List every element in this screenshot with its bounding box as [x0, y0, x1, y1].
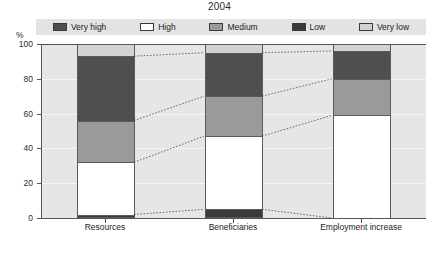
- y-axis-tick: [37, 183, 41, 184]
- x-axis-label: Resources: [45, 222, 165, 232]
- legend-swatch-low: [292, 23, 306, 31]
- legend-item-low: Low: [292, 22, 326, 32]
- legend-label-very-high: Very high: [71, 22, 106, 32]
- legend-label-high: High: [158, 22, 175, 32]
- legend-swatch-medium: [209, 23, 223, 31]
- y-axis-tick: [37, 79, 41, 80]
- bar-segment-high: [333, 115, 391, 218]
- legend-label-medium: Medium: [227, 22, 257, 32]
- bar-segment-very-high: [205, 53, 263, 97]
- bar-segment-medium: [205, 96, 263, 136]
- y-axis-tick: [37, 114, 41, 115]
- legend-item-medium: Medium: [209, 22, 257, 32]
- bar-employment-increase[interactable]: [333, 44, 391, 218]
- y-axis-label: 60: [7, 109, 33, 119]
- legend-swatch-high: [140, 23, 154, 31]
- chart-legend: Very high High Medium Low Very low: [36, 19, 426, 35]
- legend-swatch-very-high: [53, 23, 67, 31]
- bar-segment-medium: [77, 121, 135, 163]
- y-axis-label: 100: [7, 39, 33, 49]
- bar-segment-high: [77, 162, 135, 214]
- bar-segment-high: [205, 136, 263, 209]
- y-axis-tick: [37, 44, 41, 45]
- bar-segment-very-low: [205, 44, 263, 53]
- y-axis-label: 0: [7, 213, 33, 223]
- x-axis-label: Employment increase: [301, 222, 421, 232]
- legend-swatch-very-low: [359, 23, 373, 31]
- bar-segment-very-low: [333, 44, 391, 51]
- legend-item-very-high: Very high: [53, 22, 106, 32]
- y-axis-label: 20: [7, 178, 33, 188]
- bar-resources[interactable]: [77, 44, 135, 218]
- x-axis-label: Beneficiaries: [173, 222, 293, 232]
- y-axis-tick: [37, 148, 41, 149]
- chart-figure: 2004 Very high High Medium Low Very low …: [0, 0, 439, 266]
- legend-item-very-low: Very low: [359, 22, 409, 32]
- bar-segment-low: [205, 209, 263, 218]
- y-axis-label: 40: [7, 143, 33, 153]
- y-axis-tick: [37, 218, 41, 219]
- chart-title: 2004: [0, 1, 439, 12]
- legend-label-very-low: Very low: [377, 22, 409, 32]
- bar-segment-medium: [333, 79, 391, 116]
- plot-inner: [42, 44, 426, 218]
- bar-segment-very-low: [77, 44, 135, 56]
- y-axis-label: 80: [7, 74, 33, 84]
- bar-segment-low: [77, 215, 135, 218]
- legend-item-high: High: [140, 22, 175, 32]
- bar-segment-very-high: [77, 56, 135, 120]
- legend-label-low: Low: [310, 22, 326, 32]
- plot-area: [41, 44, 426, 219]
- bar-beneficiaries[interactable]: [205, 44, 263, 218]
- bar-segment-very-high: [333, 51, 391, 79]
